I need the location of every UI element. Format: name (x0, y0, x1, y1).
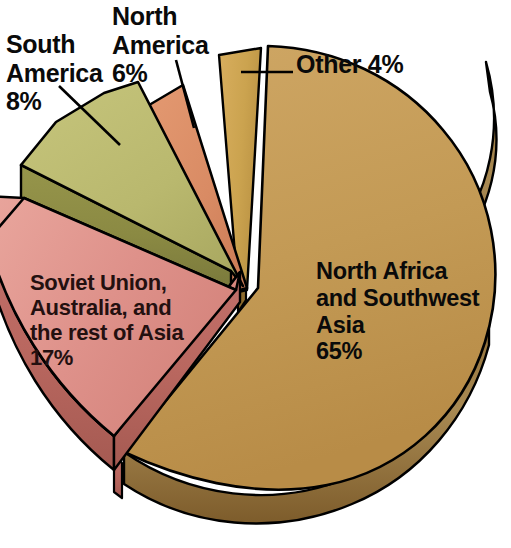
pie-chart-figure: South America 8% North America 6% Other … (0, 0, 511, 548)
pie-chart-graphic (0, 0, 511, 548)
